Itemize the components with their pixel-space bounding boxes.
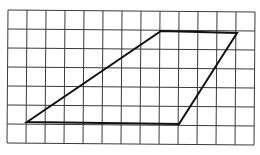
grid-line-vertical — [64, 10, 65, 143]
grid-line-horizontal — [7, 143, 254, 145]
grid-line-vertical — [235, 12, 236, 145]
grid-line-horizontal — [8, 10, 255, 12]
grid-line-vertical — [7, 10, 8, 143]
grid-line-horizontal — [8, 67, 255, 69]
grid-line-horizontal — [7, 105, 254, 107]
grid-line-vertical — [45, 10, 46, 143]
grid-diagram — [0, 0, 260, 155]
grid-line-horizontal — [7, 86, 254, 88]
trapezoid-shape — [27, 31, 237, 124]
grid-line-vertical — [254, 12, 255, 145]
grid-line-horizontal — [8, 48, 255, 50]
grid-line-vertical — [26, 10, 27, 143]
grid-line-horizontal — [8, 29, 255, 31]
square-grid — [7, 10, 255, 145]
